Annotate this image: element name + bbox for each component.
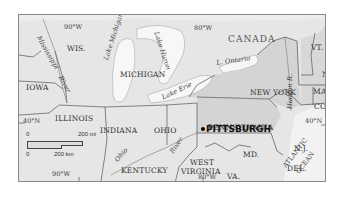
state-wis: WIS.	[67, 45, 86, 53]
state-west-virginia-line1: WEST	[190, 159, 214, 167]
scale-km-end: 200 km	[54, 151, 74, 157]
label-hudson-river: Hudson R.	[287, 74, 294, 109]
state-kentucky: KENTUCKY	[121, 167, 168, 175]
scale-mi-start: 0	[26, 131, 29, 137]
state-new-hampshire: N.H.	[322, 71, 326, 79]
coord-40n-right: 40°N	[305, 118, 322, 125]
state-maryland: MD.	[243, 151, 259, 159]
state-connecticut: CONN.	[314, 103, 326, 111]
georgian-bay-shape	[19, 15, 326, 21]
scale-km-start: 0	[26, 151, 29, 157]
coord-90w-top: 90°W	[64, 24, 82, 31]
coord-90w-bottom: 90°W	[52, 171, 70, 178]
state-iowa: IOWA	[26, 84, 49, 92]
state-michigan: MICHIGAN	[120, 71, 165, 79]
scale-bar-km	[27, 145, 62, 149]
state-ohio: OHIO	[154, 127, 177, 135]
state-west-virginia-line2: VIRGINIA	[181, 168, 221, 176]
scale-bar: 0 200 mi 0 200 km	[26, 131, 96, 165]
state-indiana: INDIANA	[100, 127, 137, 135]
coord-80w-top: 80°W	[194, 25, 212, 32]
country-canada: CANADA	[228, 35, 275, 44]
state-illinois: ILLINOIS	[55, 115, 93, 123]
map-frame: 90°W 80°W 40°N 40°N 90°W 80°W CANADA WIS…	[18, 14, 326, 182]
state-massachusetts: MASS.	[313, 88, 326, 96]
city-pittsburgh: PITTSBURGH	[206, 125, 271, 134]
city-marker-icon	[201, 127, 205, 131]
scale-mi-end: 200 mi	[78, 131, 96, 137]
coord-40n-left: 40°N	[23, 118, 40, 125]
state-vermont: VT.	[311, 44, 323, 52]
state-virginia: VA.	[227, 173, 240, 181]
